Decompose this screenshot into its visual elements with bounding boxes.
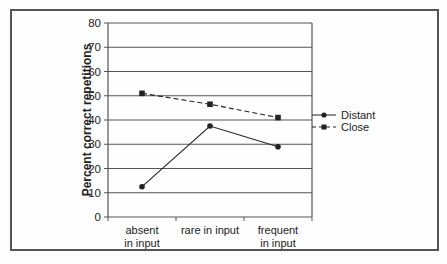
- x-tick-label: in input: [260, 237, 295, 249]
- legend-label-close: Close: [341, 121, 369, 133]
- x-tick-label: in input: [124, 237, 159, 249]
- x-tick-label: frequent: [258, 224, 298, 236]
- square-marker-icon: [322, 125, 327, 130]
- y-tick-label: 0: [95, 211, 101, 223]
- series-line-distant: [142, 126, 278, 187]
- legend-item-close: Close: [312, 121, 369, 133]
- legend: Distant Close: [312, 109, 375, 133]
- x-axis-ticks: absentin inputrare in inputfrequentin in…: [124, 224, 298, 249]
- data-point: [207, 123, 213, 129]
- data-point: [207, 101, 213, 107]
- data-point: [139, 184, 145, 190]
- data-point: [139, 91, 145, 97]
- y-tick-label: 80: [88, 17, 101, 29]
- x-tick-label: absent: [125, 224, 158, 236]
- data-point: [275, 115, 281, 121]
- x-tick-label: rare in input: [181, 224, 239, 236]
- y-axis-label: Percent correct repetitions: [80, 43, 94, 196]
- line-chart: 01020304050607080 Percent correct repeti…: [0, 0, 447, 264]
- data-series: [139, 91, 281, 190]
- data-point: [275, 144, 281, 150]
- legend-label-distant: Distant: [341, 109, 375, 121]
- gridlines: [104, 23, 312, 221]
- legend-item-distant: Distant: [312, 109, 375, 121]
- circle-marker-icon: [321, 112, 326, 117]
